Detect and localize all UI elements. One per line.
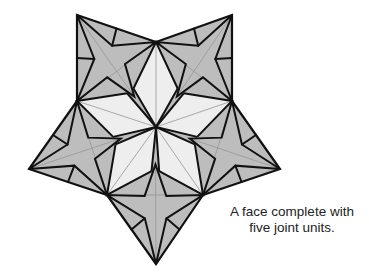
arm-notch-a-1 <box>215 58 232 59</box>
caption: A face complete with five joint units. <box>218 204 366 236</box>
caption-line-1: A face complete with <box>218 204 366 220</box>
pentagon-face-diagram <box>0 0 369 280</box>
caption-line-2: five joint units. <box>218 220 366 236</box>
arm-notch-b-0 <box>77 58 94 59</box>
